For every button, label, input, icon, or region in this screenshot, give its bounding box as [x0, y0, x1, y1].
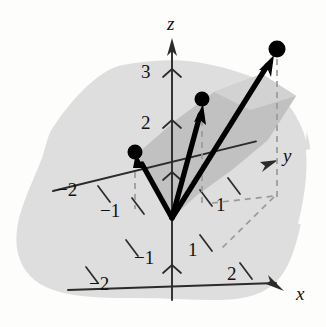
axis-label-z: z [167, 14, 174, 33]
point-dot-mid [195, 92, 210, 107]
axis-label-x: x [296, 284, 304, 303]
tick-label-x-neg1: −1 [134, 248, 154, 267]
point-dot-left [128, 145, 143, 160]
axis-label-y: y [283, 146, 291, 165]
point-dot-right [269, 41, 286, 58]
tick-label-y-neg2: −2 [57, 180, 77, 199]
figure-canvas [0, 0, 326, 327]
tick-label-y-neg1: −1 [100, 201, 120, 220]
figure-3d-vectors: zyx32−2−11−1−212 [0, 0, 326, 327]
tick-label-x-pos1: 1 [188, 240, 198, 259]
tick-label-x-neg2: −2 [89, 274, 109, 293]
tick-label-z-3: 3 [141, 62, 151, 81]
tick-label-z-2: 2 [141, 113, 151, 132]
tick-label-x-pos2: 2 [227, 264, 237, 283]
tick-label-y-pos1: 1 [216, 195, 226, 214]
